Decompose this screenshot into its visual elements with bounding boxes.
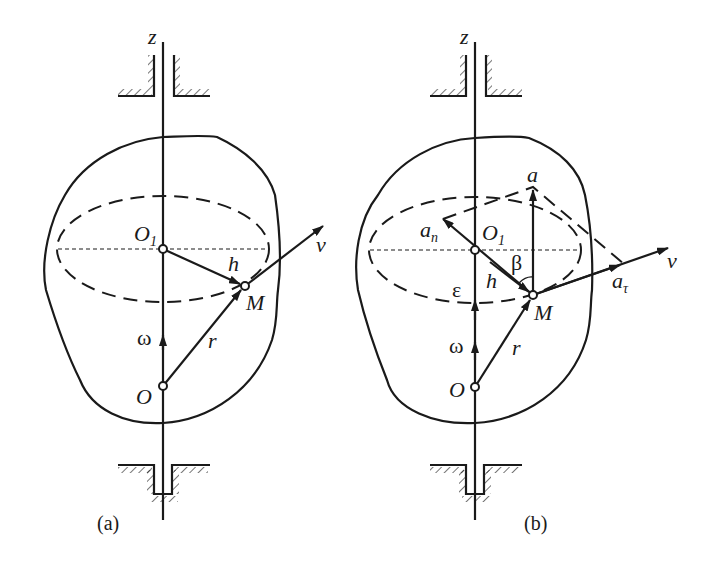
M-label: M: [533, 300, 554, 325]
caption-a: (a): [97, 512, 119, 535]
point-O: [159, 382, 167, 390]
atau-label: aτ: [612, 268, 629, 296]
panel-b: z ε ω an h a β v aτ: [356, 24, 677, 535]
point-M: [529, 291, 537, 299]
beta-label: β: [511, 250, 522, 275]
omega-label: ω: [449, 333, 463, 358]
point-M: [241, 282, 249, 290]
panel-a: z ω h r v O1 M O (a): [44, 24, 326, 535]
z-axis-label: z: [147, 24, 157, 49]
point-O: [471, 383, 479, 391]
r-label: r: [512, 335, 521, 360]
atau-vector: [533, 265, 620, 295]
v-vector: [245, 226, 323, 286]
v-label: v: [667, 248, 677, 273]
point-O1: [471, 246, 479, 254]
z-axis-label: z: [459, 24, 469, 49]
omega-label: ω: [137, 325, 151, 350]
caption-b: (b): [524, 512, 547, 535]
epsilon-label: ε: [452, 277, 461, 302]
O1-label: O1: [134, 221, 157, 249]
point-O1: [159, 245, 167, 253]
O-label: O: [136, 384, 152, 409]
O-label: O: [449, 377, 465, 402]
v-label: v: [316, 232, 326, 257]
an-label: an: [420, 217, 438, 245]
h-label: h: [228, 251, 239, 276]
beta-arc: [519, 277, 533, 283]
O1-label: O1: [482, 220, 505, 248]
r-vector: [475, 300, 530, 387]
r-vector: [163, 290, 241, 386]
rotation-diagram: z ω h r v O1 M O (a): [0, 0, 706, 565]
h-label: h: [486, 268, 497, 293]
r-label: r: [208, 328, 217, 353]
a-label: a: [527, 162, 538, 187]
M-label: M: [245, 290, 266, 315]
